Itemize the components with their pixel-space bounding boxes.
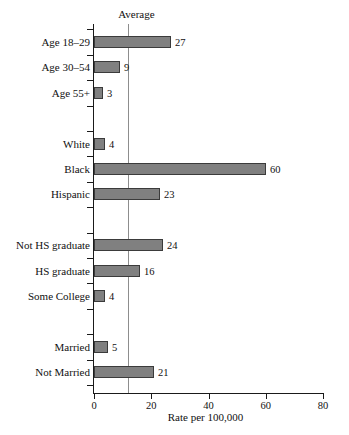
bar-value-label: 5 bbox=[112, 342, 117, 354]
x-axis-title-text: Rate per 100,000 bbox=[106, 411, 243, 424]
bar bbox=[94, 87, 103, 99]
x-axis-title: Rate per 100,000 bbox=[0, 411, 349, 424]
category-label: Some College bbox=[28, 290, 90, 303]
x-axis-tick bbox=[266, 394, 267, 399]
average-label: Average bbox=[118, 8, 154, 21]
y-axis-tick bbox=[87, 360, 94, 361]
category-label: HS graduate bbox=[35, 265, 90, 278]
bar bbox=[94, 188, 160, 200]
y-axis-tick bbox=[87, 233, 94, 234]
category-label: Not Married bbox=[35, 366, 90, 379]
bar bbox=[94, 265, 140, 277]
bar-value-label: 3 bbox=[107, 88, 112, 100]
bar-value-label: 9 bbox=[124, 62, 129, 74]
bar bbox=[94, 341, 108, 353]
bar-value-label: 60 bbox=[270, 164, 281, 176]
category-label: Not HS graduate bbox=[16, 239, 90, 252]
bar bbox=[94, 366, 154, 378]
x-axis-tick bbox=[94, 394, 95, 399]
bar bbox=[94, 61, 120, 73]
bar bbox=[94, 36, 171, 48]
y-axis-tick bbox=[87, 182, 94, 183]
bar-value-label: 4 bbox=[109, 139, 114, 151]
category-label: Hispanic bbox=[51, 188, 90, 201]
category-label: Married bbox=[55, 341, 90, 354]
y-axis-tick bbox=[87, 309, 94, 310]
y-axis-tick bbox=[87, 131, 94, 132]
bar-value-label: 24 bbox=[167, 240, 178, 252]
category-label: Age 18–29 bbox=[41, 36, 90, 49]
x-axis-tick bbox=[209, 394, 210, 399]
category-label: Black bbox=[64, 163, 90, 176]
y-axis-tick bbox=[87, 156, 94, 157]
x-axis-tick bbox=[323, 394, 324, 399]
bar-value-label: 27 bbox=[175, 37, 186, 49]
y-axis-tick bbox=[87, 207, 94, 208]
bar-value-label: 23 bbox=[164, 189, 175, 201]
y-axis-tick bbox=[87, 106, 94, 107]
bar-value-label: 4 bbox=[109, 291, 114, 303]
bar bbox=[94, 138, 105, 150]
x-axis-tick bbox=[151, 394, 152, 399]
y-axis-tick bbox=[87, 29, 94, 30]
y-axis-tick bbox=[87, 55, 94, 56]
bar bbox=[94, 239, 163, 251]
bar-chart: Average 020406080 27Age 18–299Age 30–543… bbox=[0, 0, 349, 435]
average-reference-line bbox=[128, 24, 129, 394]
y-axis-tick bbox=[87, 258, 94, 259]
category-label: Age 30–54 bbox=[41, 61, 90, 74]
category-label: White bbox=[63, 138, 90, 151]
y-axis-tick bbox=[87, 385, 94, 386]
bar-value-label: 21 bbox=[158, 367, 169, 379]
y-axis-tick bbox=[87, 283, 94, 284]
category-label: Age 55+ bbox=[52, 87, 90, 100]
y-axis-tick bbox=[87, 80, 94, 81]
bar bbox=[94, 163, 266, 175]
y-axis-tick bbox=[87, 334, 94, 335]
bar bbox=[94, 290, 105, 302]
bar-value-label: 16 bbox=[144, 266, 155, 278]
